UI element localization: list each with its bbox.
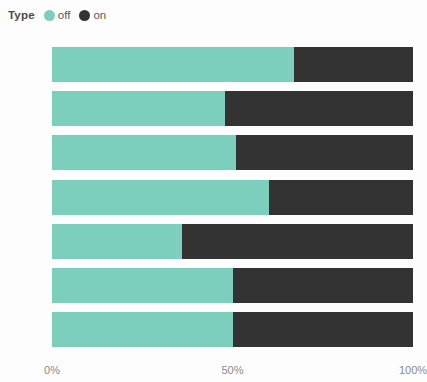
bar-segment-on[interactable] <box>236 135 413 170</box>
legend-title: Type <box>8 9 35 21</box>
legend-swatch-off-icon <box>44 10 55 21</box>
bar-segment-on[interactable] <box>225 91 413 126</box>
bar-segment-on[interactable] <box>269 180 413 215</box>
plot-area: SatTueFriMonWedThuSun 0%50%100% <box>0 34 427 382</box>
bar-segment-on[interactable] <box>233 268 414 303</box>
bar-segment-off[interactable] <box>52 268 233 303</box>
bar-segment-off[interactable] <box>52 47 294 82</box>
bar-track <box>52 180 413 215</box>
bar-track <box>52 47 413 82</box>
legend-label-off: off <box>58 9 71 21</box>
bar-row: Sat <box>52 47 413 82</box>
bar-track <box>52 312 413 347</box>
bar-segment-off[interactable] <box>52 135 236 170</box>
bar-row: Mon <box>52 180 413 215</box>
bar-segment-off[interactable] <box>52 180 269 215</box>
bar-row: Thu <box>52 268 413 303</box>
chart-legend: Type off on <box>8 5 106 25</box>
bar-track <box>52 135 413 170</box>
x-axis: 0%50%100% <box>52 364 413 382</box>
x-axis-tick-label: 50% <box>221 364 243 376</box>
legend-label-on: on <box>93 9 106 21</box>
bar-segment-on[interactable] <box>294 47 413 82</box>
bar-row: Tue <box>52 91 413 126</box>
x-axis-tick-label: 0% <box>44 364 60 376</box>
bar-segment-off[interactable] <box>52 312 233 347</box>
legend-entry-off[interactable]: off <box>44 9 71 21</box>
bars-container: SatTueFriMonWedThuSun <box>52 47 413 358</box>
bar-segment-on[interactable] <box>233 312 414 347</box>
legend-swatch-on-icon <box>79 10 90 21</box>
bar-row: Wed <box>52 224 413 259</box>
bar-segment-on[interactable] <box>182 224 413 259</box>
x-axis-tick-label: 100% <box>399 364 427 376</box>
bar-segment-off[interactable] <box>52 91 225 126</box>
bar-track <box>52 91 413 126</box>
stacked-bar-chart: Type off on SatTueFriMonWedThuSun 0%50%1… <box>0 0 427 382</box>
bar-track <box>52 224 413 259</box>
bar-row: Sun <box>52 312 413 347</box>
bar-track <box>52 268 413 303</box>
legend-entry-on[interactable]: on <box>79 9 106 21</box>
bar-segment-off[interactable] <box>52 224 182 259</box>
bar-row: Fri <box>52 135 413 170</box>
